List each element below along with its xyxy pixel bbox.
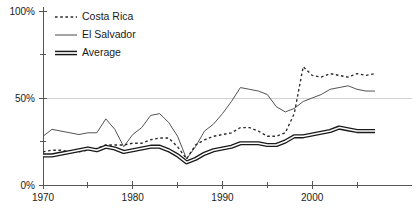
- series-lines: [43, 67, 375, 163]
- legend-label-costa-rica: Costa Rica: [82, 10, 134, 22]
- x-axis: 1970198019902000: [32, 181, 412, 203]
- y-tick-label-50: 50%: [15, 93, 35, 104]
- x-tick-label-2000: 2000: [301, 192, 324, 203]
- series-costa-rica: [43, 67, 375, 159]
- line-chart: 100%50%0% 1970198019902000 Costa RicaEl …: [0, 0, 418, 216]
- x-tick-label-1990: 1990: [211, 192, 234, 203]
- legend-label-el-salvador: El Salvador: [82, 28, 136, 40]
- y-axis: 100%50%0%: [9, 6, 47, 191]
- chart-container: 100%50%0% 1970198019902000 Costa RicaEl …: [0, 0, 418, 216]
- x-tick-label-1970: 1970: [32, 192, 55, 203]
- y-tick-label-0: 0%: [21, 180, 36, 191]
- legend-item-el-salvador: El Salvador: [55, 28, 136, 40]
- y-tick-label-100: 100%: [9, 6, 35, 17]
- legend-item-costa-rica: Costa Rica: [55, 10, 134, 22]
- legend-label-average: Average: [82, 46, 121, 58]
- chart-legend: Costa RicaEl SalvadorAverage: [55, 10, 136, 58]
- x-tick-label-1980: 1980: [122, 192, 145, 203]
- legend-item-average: Average: [55, 46, 121, 58]
